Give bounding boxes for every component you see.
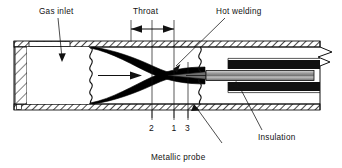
label-insulation: Insulation xyxy=(258,133,296,142)
label-gas-inlet: Gas inlet xyxy=(39,7,74,16)
end-cap-block xyxy=(15,47,27,104)
tube-bottom-wall xyxy=(14,104,320,110)
insulation-band-bottom xyxy=(228,82,320,91)
venturi-probe-diagram: Gas inlet Throat Hot welding Insulation … xyxy=(0,0,342,168)
label-throat: Throat xyxy=(133,7,159,16)
label-metallic-probe: Metallic probe xyxy=(151,153,206,162)
inlet-port-slot xyxy=(29,42,70,47)
station-number-2: 2 xyxy=(149,123,154,133)
station-number-1: 1 xyxy=(172,123,177,133)
station-number-3: 3 xyxy=(185,123,190,133)
left-end-cap xyxy=(15,47,27,104)
diagram-canvas: Gas inlet Throat Hot welding Insulation … xyxy=(0,0,342,168)
label-hot-welding: Hot welding xyxy=(216,7,262,16)
bottom-notch xyxy=(17,105,22,110)
inlet-cavity xyxy=(27,47,89,104)
insulation-band-top xyxy=(228,60,320,69)
gas-inlet-chamber xyxy=(17,42,90,110)
